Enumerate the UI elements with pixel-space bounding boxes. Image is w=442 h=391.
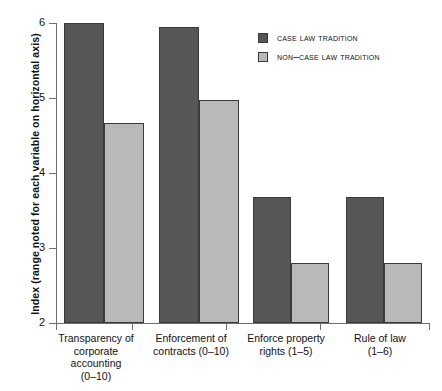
y-tick-label-5: 5 xyxy=(39,91,45,104)
bar-case-law-enforcement xyxy=(159,27,199,323)
bar-case-law-property-rights xyxy=(253,197,291,323)
y-axis-line xyxy=(56,23,57,323)
x-category-line: accounting xyxy=(46,357,146,370)
x-category-line: Transparency of xyxy=(46,332,146,345)
y-tick-3: 3 xyxy=(49,248,56,249)
x-axis-line xyxy=(56,323,430,324)
x-tick-2 xyxy=(226,323,227,330)
legend-item-case-law: Case law tradition xyxy=(258,28,380,47)
x-category-line: (0–10) xyxy=(46,370,146,383)
x-tick-3 xyxy=(320,323,321,330)
y-tick-5: 5 xyxy=(49,98,56,99)
legend-swatch-icon-case-law xyxy=(258,33,268,43)
x-category-line: Enforcement of xyxy=(138,332,244,345)
y-tick-label-2: 2 xyxy=(39,316,45,329)
bar-chart: Index (range noted for each variable on … xyxy=(0,0,442,391)
legend-item-non-case-law: Non–case law tradition xyxy=(258,47,380,66)
bar-non-case-law-rule-of-law xyxy=(384,263,422,323)
bar-non-case-law-enforcement xyxy=(199,100,239,324)
bar-non-case-law-property-rights xyxy=(291,263,329,323)
chart-legend: Case law tradition Non–case law traditio… xyxy=(258,28,380,66)
y-tick-6: 6 xyxy=(49,23,56,24)
x-tick-0 xyxy=(56,323,57,330)
bar-case-law-transparency xyxy=(64,23,104,323)
legend-label-case-law: Case law tradition xyxy=(277,32,358,43)
x-category-label-rule-of-law: Rule of law (1–6) xyxy=(330,332,430,357)
y-tick-label-3: 3 xyxy=(39,241,45,254)
x-category-line: Rule of law xyxy=(330,332,430,345)
bar-case-law-rule-of-law xyxy=(346,197,384,323)
x-category-line: contracts (0–10) xyxy=(138,345,244,358)
y-tick-label-4: 4 xyxy=(39,166,45,179)
x-category-label-transparency: Transparency of corporate accounting (0–… xyxy=(46,332,146,382)
bar-non-case-law-transparency xyxy=(104,123,144,323)
x-category-label-property-rights: Enforce property rights (1–5) xyxy=(233,332,339,357)
legend-label-non-case-law: Non–case law tradition xyxy=(277,51,380,62)
legend-swatch-icon-non-case-law xyxy=(258,52,268,62)
x-category-line: Enforce property xyxy=(233,332,339,345)
y-tick-4: 4 xyxy=(49,173,56,174)
x-category-line: corporate xyxy=(46,345,146,358)
y-tick-2: 2 xyxy=(49,323,56,324)
x-category-line: (1–6) xyxy=(330,345,430,358)
x-category-line: rights (1–5) xyxy=(233,345,339,358)
x-tick-4 xyxy=(429,323,430,330)
x-tick-1 xyxy=(132,323,133,330)
plot-area: 6 5 4 3 2 xyxy=(56,23,430,323)
y-tick-label-6: 6 xyxy=(39,16,45,29)
x-category-label-enforcement: Enforcement of contracts (0–10) xyxy=(138,332,244,357)
